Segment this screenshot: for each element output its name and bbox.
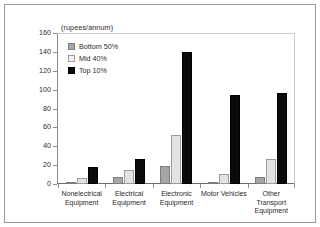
chart-area: (rupees/annum) 020406080100120140160 Non… bbox=[5, 5, 317, 224]
legend-swatch-icon bbox=[68, 67, 75, 74]
y-axis-tick-label: 60 bbox=[43, 122, 51, 131]
legend-item-label: Bottom 50% bbox=[79, 42, 118, 51]
bar bbox=[266, 159, 276, 184]
y-axis-tick-mark bbox=[53, 33, 57, 34]
legend-item-label: Mid 40% bbox=[79, 54, 107, 63]
legend: Bottom 50%Mid 40%Top 10% bbox=[68, 41, 154, 77]
x-axis-tick-label: Motor Vehicles bbox=[200, 190, 247, 199]
x-axis-tick-label: Electrical Equipment bbox=[105, 190, 152, 207]
y-axis-tick-mark bbox=[53, 184, 57, 185]
bar bbox=[88, 167, 98, 184]
x-axis-tick-mark bbox=[200, 184, 201, 188]
bar bbox=[124, 170, 134, 184]
legend-item-label: Top 10% bbox=[79, 66, 107, 75]
bar bbox=[135, 159, 145, 184]
bar-group bbox=[153, 33, 200, 184]
y-axis-tick-label: 160 bbox=[39, 28, 51, 37]
x-axis-labels: Nonelectrical EquipmentElectrical Equipm… bbox=[58, 190, 295, 224]
y-axis-tick-label: 0 bbox=[47, 179, 51, 188]
y-axis-tick-mark bbox=[53, 90, 57, 91]
bar bbox=[277, 93, 287, 184]
y-axis-tick-label: 20 bbox=[43, 160, 51, 169]
x-axis-tick-mark bbox=[105, 184, 106, 188]
bar bbox=[255, 177, 265, 184]
bar bbox=[182, 52, 192, 184]
y-axis-tick-label: 140 bbox=[39, 47, 51, 56]
bar bbox=[171, 135, 181, 184]
x-axis-tick-mark bbox=[294, 184, 295, 188]
chart-screenshot: (rupees/annum) 020406080100120140160 Non… bbox=[0, 0, 320, 227]
legend-item: Top 10% bbox=[68, 65, 154, 76]
bar bbox=[113, 177, 123, 184]
x-axis-tick-mark bbox=[58, 184, 59, 188]
bar bbox=[230, 95, 240, 184]
legend-item: Mid 40% bbox=[68, 53, 154, 64]
y-axis-tick-mark bbox=[53, 71, 57, 72]
y-axis-tick-label: 100 bbox=[39, 85, 51, 94]
x-axis-tick-label: Nonelectrical Equipment bbox=[58, 190, 105, 207]
y-axis-tick-mark bbox=[53, 165, 57, 166]
x-axis-tick-label: Electronic Equipment bbox=[153, 190, 200, 207]
y-axis-tick-label: 120 bbox=[39, 66, 51, 75]
y-axis-units-label: (rupees/annum) bbox=[61, 23, 113, 32]
y-axis-tick-mark bbox=[53, 127, 57, 128]
bar-group bbox=[200, 33, 247, 184]
figure-frame: (rupees/annum) 020406080100120140160 Non… bbox=[4, 4, 316, 223]
bar-group bbox=[248, 33, 295, 184]
y-axis-tick-mark bbox=[53, 109, 57, 110]
legend-swatch-icon bbox=[68, 43, 75, 50]
y-axis-tick-label: 80 bbox=[43, 104, 51, 113]
x-axis-tick-mark bbox=[248, 184, 249, 188]
legend-item: Bottom 50% bbox=[68, 41, 154, 52]
x-axis-tick-label: Other Transport Equipment bbox=[248, 190, 295, 216]
y-axis-tick-mark bbox=[53, 52, 57, 53]
x-axis-tick-mark bbox=[153, 184, 154, 188]
x-axis-ticks bbox=[58, 184, 295, 188]
legend-swatch-icon bbox=[68, 55, 75, 62]
bar bbox=[219, 174, 229, 184]
y-axis-tick-label: 40 bbox=[43, 141, 51, 150]
y-axis-tick-mark bbox=[53, 146, 57, 147]
bar bbox=[160, 166, 170, 184]
